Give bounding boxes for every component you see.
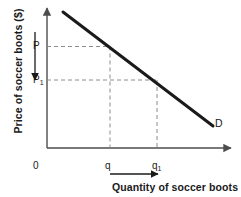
demand-curve-figure: Price of soccer boots ($) Quantity of so…	[0, 0, 241, 197]
price-new-label-base: P	[33, 74, 40, 85]
price-new-label: P1	[33, 74, 44, 85]
quantity-new-label: q1	[152, 160, 161, 171]
x-axis-title: Quantity of soccer boots	[112, 181, 238, 193]
demand-curve-label: D	[215, 117, 223, 129]
quantity-initial-label: q	[105, 160, 111, 171]
quantity-new-label-base: q	[152, 160, 158, 171]
price-initial-label: P	[33, 40, 40, 51]
origin-label: 0	[33, 160, 39, 171]
demand-curve	[63, 12, 213, 126]
price-new-label-subscript: 1	[40, 79, 44, 86]
quantity-new-label-subscript: 1	[158, 165, 162, 172]
y-axis-title: Price of soccer boots ($)	[12, 6, 24, 136]
